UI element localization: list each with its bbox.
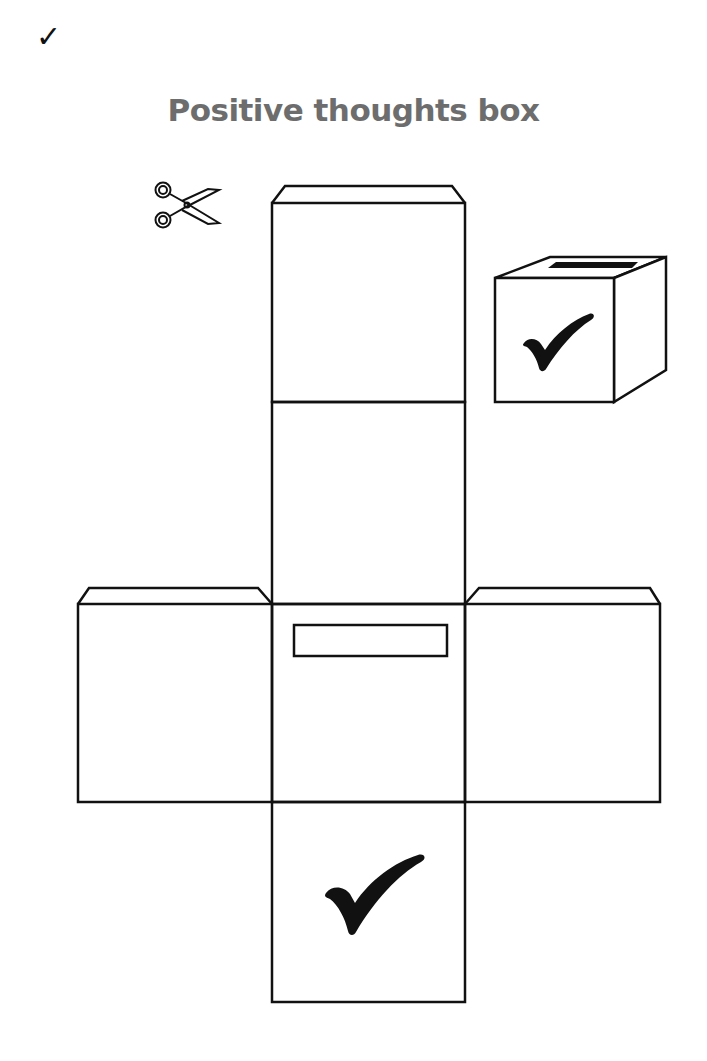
scissors-icon xyxy=(156,183,220,228)
box-net-diagram xyxy=(0,0,707,1061)
ballot-box-icon xyxy=(495,257,666,402)
top-glue-flap xyxy=(272,186,465,203)
panel-left-side xyxy=(78,604,272,802)
posting-slot xyxy=(294,625,447,656)
checkmark-icon xyxy=(325,855,425,935)
left-glue-flap xyxy=(78,588,272,604)
panel-lid xyxy=(272,604,465,802)
panel-right-side xyxy=(465,604,660,802)
right-glue-flap xyxy=(465,588,660,604)
panel-top xyxy=(272,203,465,402)
panel-back xyxy=(272,402,465,604)
